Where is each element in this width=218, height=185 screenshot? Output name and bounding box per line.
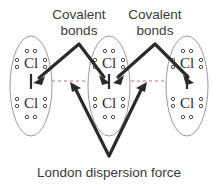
lone-pair-dot — [199, 65, 202, 68]
atom-symbol-cl: Cl — [180, 55, 194, 71]
lone-pair-dot — [199, 104, 202, 107]
lone-pair-dot — [121, 58, 124, 61]
lone-pair-dot — [43, 58, 46, 61]
lone-pair-dot — [111, 115, 114, 118]
label-covalent-bonds-left: Covalent bonds — [52, 7, 106, 38]
chlorine-lewis-structure-diagram: Covalent bonds Covalent bonds Cl — [0, 0, 218, 185]
lone-pair-dot — [43, 65, 46, 68]
molecule-right-atom-top: Cl — [171, 49, 202, 71]
label-covalent-bonds-right: Covalent bonds — [128, 7, 182, 38]
lone-pair-dot — [15, 58, 18, 61]
label-covalent-left-line2: bonds — [61, 23, 98, 38]
molecule-center-atom-bottom: Cl — [93, 95, 124, 119]
covalent-right-pointer-stem — [118, 44, 188, 77]
lone-pair-dot — [199, 97, 202, 100]
lone-pair-dot — [111, 49, 114, 52]
atom-symbol-cl: Cl — [24, 55, 38, 71]
lone-pair-dot — [121, 97, 124, 100]
covalent-left-pointer-arrow — [33, 44, 110, 85]
lone-pair-dot — [15, 104, 18, 107]
lone-pair-dot — [171, 65, 174, 68]
label-london-dispersion-force: London dispersion force — [37, 165, 181, 180]
diagram-canvas: Covalent bonds Covalent bonds Cl — [0, 0, 218, 185]
lone-pair-dot — [181, 49, 184, 52]
lone-pair-dot — [43, 97, 46, 100]
molecule-left-atom-bottom: Cl — [15, 95, 46, 119]
lone-pair-dot — [181, 115, 184, 118]
lone-pair-dot — [189, 115, 192, 118]
lone-pair-dot — [121, 65, 124, 68]
lone-pair-dot — [25, 49, 28, 52]
dispersion-pointer-arrow — [70, 82, 147, 156]
lone-pair-dot — [103, 115, 106, 118]
atom-symbol-cl: Cl — [180, 95, 194, 111]
lone-pair-dot — [25, 115, 28, 118]
label-covalent-left-line1: Covalent — [52, 7, 106, 22]
label-covalent-right-line1: Covalent — [128, 7, 182, 22]
molecule-right-atom-bottom: Cl — [171, 95, 202, 119]
molecule-right: Cl Cl — [166, 36, 208, 136]
lone-pair-dot — [33, 49, 36, 52]
lone-pair-dot — [93, 97, 96, 100]
lone-pair-dot — [33, 115, 36, 118]
atom-symbol-cl: Cl — [24, 95, 38, 111]
atom-symbol-cl: Cl — [102, 95, 116, 111]
molecule-left: Cl Cl — [10, 36, 52, 136]
lone-pair-dot — [189, 49, 192, 52]
lone-pair-dot — [171, 97, 174, 100]
label-covalent-right-line2: bonds — [137, 23, 174, 38]
atom-symbol-cl: Cl — [102, 55, 116, 71]
lone-pair-dot — [43, 104, 46, 107]
lone-pair-dot — [15, 97, 18, 100]
molecule-center: Cl Cl — [88, 36, 130, 136]
lone-pair-dot — [15, 65, 18, 68]
lone-pair-dot — [93, 104, 96, 107]
lone-pair-dot — [171, 104, 174, 107]
lone-pair-dot — [199, 58, 202, 61]
lone-pair-dot — [103, 49, 106, 52]
molecule-left-atom-top: Cl — [15, 49, 46, 71]
lone-pair-dot — [121, 104, 124, 107]
